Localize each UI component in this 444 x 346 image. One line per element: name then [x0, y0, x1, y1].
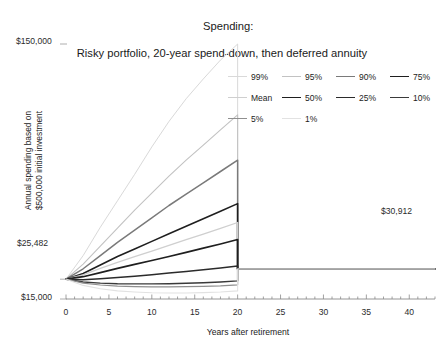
series-line-10pct [66, 269, 435, 284]
legend-item-50pct[interactable]: 50% [282, 93, 336, 103]
legend-swatch-line-icon [282, 118, 301, 119]
x-tick-label-35: 35 [362, 307, 372, 317]
legend-item-25pct[interactable]: 25% [336, 93, 390, 103]
x-tick-label-0: 0 [64, 307, 69, 317]
legend-row-1: 99%95%90%75% [228, 66, 444, 87]
legend-item-95pct[interactable]: 95% [282, 72, 336, 82]
legend-label: 75% [413, 72, 430, 82]
x-tick-label-15: 15 [190, 307, 200, 317]
y-axis-title-line1: Annual spending based on [23, 111, 33, 210]
series-line-50pct [66, 240, 435, 280]
legend-item-90pct[interactable]: 90% [336, 72, 390, 82]
y-tick-label-bottom: $15,000 [21, 292, 52, 302]
legend-item-99pct[interactable]: 99% [228, 72, 282, 82]
legend-row-3: 5%1% [228, 108, 444, 129]
legend-swatch-line-icon [228, 118, 247, 119]
legend-label: Mean [251, 93, 272, 103]
chart-legend: 99%95%90%75%Mean50%25%10%5%1% [228, 66, 444, 129]
legend-label: 90% [359, 72, 376, 82]
legend-label: 99% [251, 72, 268, 82]
legend-label: 1% [305, 114, 317, 124]
legend-swatch-line-icon [336, 76, 355, 77]
legend-item-75pct[interactable]: 75% [390, 72, 444, 82]
x-tick-label-10: 10 [147, 307, 157, 317]
legend-label: 10% [413, 93, 430, 103]
series-line-1pct [66, 269, 435, 293]
y-axis-title: Annual spending based on $500,000 initia… [23, 81, 44, 241]
legend-swatch-line-icon [282, 76, 301, 77]
spending-chart-figure: Spending: Risky portfolio, 20-year spend… [0, 0, 444, 346]
legend-item-1pct[interactable]: 1% [282, 114, 336, 124]
x-tick-label-20: 20 [233, 307, 243, 317]
legend-label: 95% [305, 72, 322, 82]
legend-swatch-line-icon [390, 76, 409, 77]
legend-swatch-line-icon [390, 97, 409, 98]
legend-item-mean[interactable]: Mean [228, 93, 282, 103]
legend-item-5pct[interactable]: 5% [228, 114, 282, 124]
series-line-mean [66, 223, 435, 280]
annuity-value-annotation: $30,912 [381, 206, 412, 216]
x-tick-label-5: 5 [107, 307, 112, 317]
legend-label: 5% [251, 114, 263, 124]
y-tick-label-start-value: $25,482 [17, 238, 48, 248]
plot-canvas [0, 0, 444, 346]
legend-item-10pct[interactable]: 10% [390, 93, 444, 103]
x-tick-label-30: 30 [319, 307, 329, 317]
legend-row-2: Mean50%25%10% [228, 87, 444, 108]
legend-label: 50% [305, 93, 322, 103]
legend-swatch-line-icon [228, 76, 247, 77]
y-tick-label-top: $150,000 [16, 36, 52, 46]
y-axis-title-line2: $500,000 initial investment [33, 81, 44, 241]
legend-swatch-line-icon [336, 97, 355, 98]
legend-swatch-line-icon [282, 97, 301, 98]
legend-label: 25% [359, 93, 376, 103]
x-tick-label-40: 40 [404, 307, 414, 317]
x-axis-title: Years after retirement [66, 327, 430, 337]
x-tick-label-25: 25 [276, 307, 286, 317]
legend-swatch-line-icon [228, 97, 247, 98]
